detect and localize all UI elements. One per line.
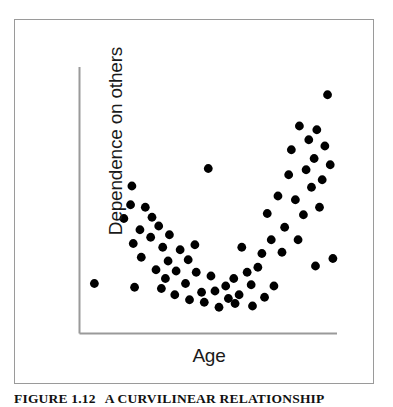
- data-point: [294, 235, 303, 244]
- data-point: [161, 274, 170, 283]
- figure-caption-text: A CURVILINEAR RELATIONSHIP: [105, 391, 325, 406]
- data-point: [270, 282, 279, 291]
- data-point: [158, 243, 167, 252]
- data-point: [260, 293, 269, 302]
- scatter-plot: Dependence on others Age: [15, 20, 375, 385]
- data-point: [280, 223, 289, 232]
- data-point: [181, 279, 190, 288]
- data-point: [152, 265, 161, 274]
- data-point: [267, 235, 276, 244]
- data-point: [284, 170, 293, 179]
- data-point: [229, 274, 238, 283]
- data-point: [237, 243, 246, 252]
- data-point: [329, 254, 338, 263]
- data-point: [197, 288, 206, 297]
- data-point: [90, 279, 99, 288]
- data-point: [157, 284, 166, 293]
- data-point: [211, 287, 220, 296]
- data-point: [302, 165, 311, 174]
- data-point: [326, 160, 335, 169]
- data-point: [148, 213, 157, 222]
- data-point: [130, 283, 139, 292]
- data-point: [315, 203, 324, 212]
- data-point: [318, 175, 327, 184]
- data-point: [137, 253, 146, 262]
- data-point: [215, 303, 224, 312]
- data-point: [248, 302, 257, 311]
- data-point: [253, 263, 262, 272]
- data-point: [221, 282, 230, 291]
- data-point: [257, 249, 266, 258]
- plot-canvas: [15, 20, 375, 385]
- data-point: [299, 210, 308, 219]
- data-point: [154, 222, 163, 231]
- data-point: [207, 272, 216, 281]
- data-point: [320, 142, 329, 151]
- data-point: [291, 195, 300, 204]
- data-point: [200, 298, 209, 307]
- data-point: [172, 267, 181, 276]
- data-point: [307, 183, 316, 192]
- y-axis-label: Dependence on others: [101, 26, 131, 256]
- data-point: [190, 240, 199, 249]
- data-point: [247, 280, 256, 289]
- data-point: [185, 295, 194, 304]
- data-point: [311, 262, 320, 271]
- figure-caption: FIGURE 1.12A CURVILINEAR RELATIONSHIP: [14, 391, 379, 407]
- data-point: [312, 125, 321, 134]
- data-point: [192, 268, 201, 277]
- data-point: [274, 192, 283, 201]
- data-point: [295, 122, 304, 131]
- data-point: [304, 135, 313, 144]
- data-point: [263, 209, 272, 218]
- data-point: [170, 290, 179, 299]
- data-point: [136, 225, 145, 234]
- data-point: [235, 290, 244, 299]
- data-point: [287, 145, 296, 154]
- data-point: [141, 203, 150, 212]
- data-point: [176, 245, 185, 254]
- data-point: [231, 299, 240, 308]
- data-point: [165, 230, 174, 239]
- data-point: [204, 164, 213, 173]
- data-point: [310, 154, 319, 163]
- x-axis-label: Age: [79, 345, 339, 367]
- data-point: [146, 233, 155, 242]
- data-point: [323, 90, 332, 99]
- data-point: [278, 248, 287, 257]
- figure-frame: Dependence on others Age: [14, 19, 374, 384]
- data-point: [243, 268, 252, 277]
- figure-caption-number: FIGURE 1.12: [14, 391, 96, 406]
- data-point: [184, 255, 193, 264]
- data-point: [164, 257, 173, 266]
